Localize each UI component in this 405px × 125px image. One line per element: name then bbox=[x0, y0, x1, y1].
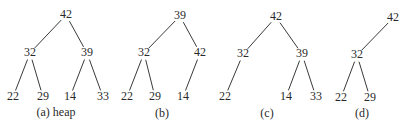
tree-edge bbox=[359, 62, 368, 92]
tree-edge bbox=[288, 61, 299, 91]
tree-node: 32 bbox=[138, 45, 150, 59]
tree-edge bbox=[248, 22, 272, 49]
tree-a-heap: 42323922291433(a) heap bbox=[7, 7, 109, 119]
tree-node: 22 bbox=[335, 90, 347, 104]
tree-caption: (c) bbox=[260, 106, 273, 120]
tree-edge bbox=[16, 60, 28, 91]
tree-node: 14 bbox=[280, 89, 292, 103]
tree-node: 29 bbox=[37, 89, 49, 103]
tree-edge bbox=[32, 60, 41, 91]
tree-node: 32 bbox=[351, 47, 363, 61]
tree-edge bbox=[183, 22, 196, 47]
tree-node: 29 bbox=[364, 90, 376, 104]
tree-edge bbox=[69, 21, 83, 47]
tree-edge bbox=[35, 20, 61, 48]
tree-node: 39 bbox=[81, 45, 93, 59]
tree-node: 42 bbox=[270, 9, 282, 23]
tree-edge bbox=[343, 62, 354, 92]
tree-node: 42 bbox=[60, 7, 72, 21]
tree-edge bbox=[304, 61, 314, 91]
tree-node: 22 bbox=[7, 89, 19, 103]
tree-edge bbox=[89, 60, 100, 91]
tree-node: 39 bbox=[296, 46, 308, 60]
tree-node: 42 bbox=[387, 10, 399, 24]
tree-caption: (d) bbox=[355, 106, 369, 120]
tree-c: 423239221433(c) bbox=[219, 9, 322, 120]
tree-node: 22 bbox=[219, 89, 231, 103]
tree-edge bbox=[73, 60, 85, 91]
tree-node: 22 bbox=[121, 89, 133, 103]
tree-d: 42322229(d) bbox=[335, 10, 399, 120]
tree-edge bbox=[280, 23, 298, 49]
heap-diagram: 42323922291433(a) heap 393242222914(b) 4… bbox=[0, 0, 405, 125]
tree-edge bbox=[186, 60, 198, 91]
tree-node: 33 bbox=[97, 89, 109, 103]
tree-edge bbox=[130, 60, 142, 91]
tree-node: 33 bbox=[310, 89, 322, 103]
tree-node: 32 bbox=[24, 45, 36, 59]
tree-node: 14 bbox=[64, 89, 76, 103]
tree-node: 32 bbox=[237, 46, 249, 60]
tree-edge bbox=[362, 23, 388, 50]
tree-node: 39 bbox=[174, 8, 186, 22]
tree-caption: (b) bbox=[155, 106, 169, 120]
tree-node: 14 bbox=[177, 89, 189, 103]
tree-edge bbox=[146, 60, 154, 90]
tree-edge bbox=[228, 61, 241, 91]
tree-node: 42 bbox=[194, 45, 206, 59]
tree-caption: (a) heap bbox=[37, 105, 76, 119]
tree-b: 393242222914(b) bbox=[121, 8, 206, 120]
tree-node: 29 bbox=[149, 89, 161, 103]
tree-edge bbox=[149, 21, 175, 48]
